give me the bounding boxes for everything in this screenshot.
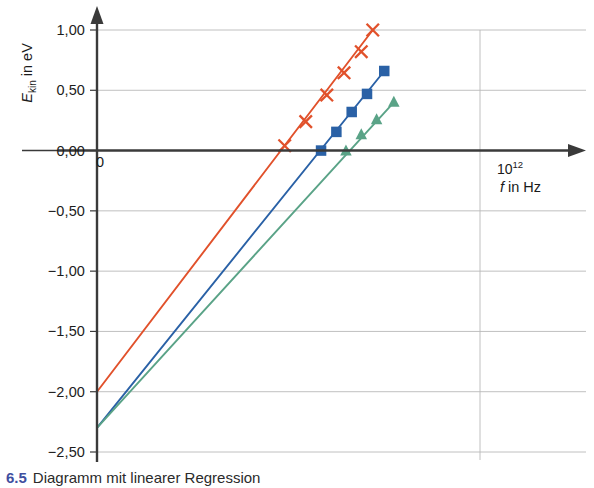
series-blue-marker bbox=[379, 66, 390, 77]
x-axis-arrowhead bbox=[568, 144, 586, 157]
series-green bbox=[97, 96, 400, 428]
y-tick-label: −1,50 bbox=[48, 324, 85, 339]
x-tick-exponent: 12 bbox=[513, 159, 524, 170]
figure-caption: 6.5 Diagramm mit linearer Regression bbox=[6, 469, 260, 488]
caption-text: Diagramm mit linearer Regression bbox=[33, 469, 261, 488]
series-blue-marker bbox=[346, 107, 357, 118]
y-axis-subscript: kin bbox=[27, 80, 38, 93]
x-axis-tick-label: 1012 bbox=[497, 160, 523, 176]
series-blue bbox=[97, 66, 390, 428]
y-axis-symbol: E bbox=[19, 93, 35, 103]
series-green-marker bbox=[371, 113, 383, 124]
x-tick-mantissa: 10 bbox=[497, 161, 513, 177]
x-axis-unit: in Hz bbox=[504, 179, 541, 195]
x-axis-title: f in Hz bbox=[500, 180, 541, 195]
series-blue-regression-line bbox=[97, 71, 384, 428]
origin-label: 0 bbox=[96, 155, 104, 170]
y-axis-unit: in eV bbox=[19, 43, 35, 80]
y-tick-label: 0,00 bbox=[56, 144, 85, 159]
series-orange bbox=[97, 24, 379, 392]
y-axis-arrowhead bbox=[91, 6, 104, 24]
y-tick-label: −1,00 bbox=[48, 264, 85, 279]
series-blue-marker bbox=[331, 127, 342, 138]
y-tick-label: −0,50 bbox=[48, 204, 85, 219]
y-tick-label: 1,00 bbox=[56, 23, 85, 38]
y-tick-label: 0,50 bbox=[56, 83, 85, 98]
series-blue-marker bbox=[362, 89, 373, 100]
y-axis-title: Ekin in eV bbox=[10, 18, 40, 138]
y-tick-label: −2,50 bbox=[48, 445, 85, 460]
series-green-marker bbox=[388, 96, 400, 107]
y-tick-label: −2,00 bbox=[48, 385, 85, 400]
caption-number: 6.5 bbox=[6, 469, 27, 488]
